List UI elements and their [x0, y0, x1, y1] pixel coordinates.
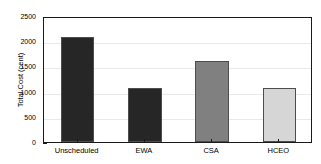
bar-ewa: [128, 88, 162, 142]
x-axis-tick-label: EWA: [109, 146, 179, 155]
bar-chart-figure: Total Cost (cent) 05001000150020002500 U…: [0, 0, 321, 164]
x-axis-tick: [211, 139, 212, 143]
bar-hceo: [263, 88, 297, 142]
x-axis-tick-label: HCEO: [243, 146, 313, 155]
x-axis-tick: [77, 139, 78, 143]
y-axis-tick-label: 2500: [6, 13, 36, 21]
bar-csa: [195, 61, 229, 142]
y-axis-tick-label: 0: [6, 139, 36, 147]
x-axis-tick: [144, 139, 145, 143]
y-axis-tick-label: 1500: [6, 63, 36, 71]
x-axis-tick: [278, 139, 279, 143]
plot-area: [43, 17, 312, 143]
y-axis-tick: [43, 143, 47, 144]
y-axis-tick-label: 2000: [6, 38, 36, 46]
y-axis-tick-label: 500: [6, 114, 36, 122]
bar-unscheduled: [61, 37, 95, 142]
y-axis-title: Total Cost (cent): [14, 17, 28, 143]
y-axis-tick-label: 1000: [6, 89, 36, 97]
x-axis-tick-label: CSA: [176, 146, 246, 155]
x-axis-tick-label: Unscheduled: [42, 146, 112, 155]
